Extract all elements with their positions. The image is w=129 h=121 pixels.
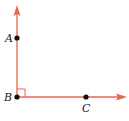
label-a: A: [4, 32, 13, 45]
label-c: C: [82, 102, 91, 115]
label-b: B: [3, 91, 12, 104]
point-c: [83, 94, 88, 99]
right-angle-diagram: A B C: [0, 0, 129, 121]
point-b: [14, 94, 19, 99]
point-a: [14, 35, 19, 40]
